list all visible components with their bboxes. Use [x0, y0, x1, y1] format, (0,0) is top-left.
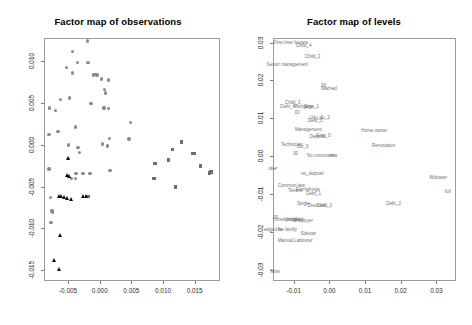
data-point-circle	[104, 91, 107, 94]
y-tick	[41, 145, 44, 146]
level-label: Management	[295, 128, 322, 133]
level-label: DI	[295, 111, 300, 116]
x-tick	[195, 281, 196, 284]
level-label: Widower	[429, 176, 447, 181]
level-label: tins	[330, 154, 337, 159]
level-label: Senior management	[267, 63, 308, 68]
data-point-square	[171, 148, 174, 151]
data-point-circle	[47, 133, 50, 136]
data-point-square	[209, 170, 212, 173]
x-tick-label: 0.01	[359, 287, 371, 294]
x-tick-label: 0.00	[323, 287, 335, 294]
y-tick	[270, 232, 273, 233]
y-tick-label: 0.03	[257, 36, 264, 48]
level-label: Home owner	[361, 129, 387, 134]
data-point-circle	[108, 169, 111, 172]
y-tick-label: -0.005	[28, 178, 35, 196]
level-label: Debt_1	[306, 192, 321, 197]
data-point-circle	[86, 39, 89, 42]
y-tick	[270, 80, 273, 81]
data-point-triangle	[66, 156, 70, 160]
y-tick	[270, 156, 273, 157]
data-point-circle	[67, 143, 70, 146]
data-point-square	[193, 152, 196, 155]
data-point-circle	[89, 102, 92, 105]
data-point-circle	[56, 130, 59, 133]
data-point-circle	[95, 73, 98, 76]
y-tick-label: -0.010	[28, 219, 35, 237]
data-point-triangle	[52, 258, 56, 262]
x-tick	[401, 281, 402, 284]
x-tick-label: 0.03	[430, 287, 442, 294]
figure-canvas: Factor map of observations -0.0050.0000.…	[0, 0, 472, 325]
data-point-circle	[81, 172, 84, 175]
y-tick	[41, 228, 44, 229]
data-point-square	[199, 164, 202, 167]
level-label: oker	[269, 167, 278, 172]
data-point-circle	[74, 172, 77, 175]
level-label: Sidecar	[301, 232, 317, 237]
level-label: Child_4	[296, 43, 312, 48]
x-tick-label: -0.005	[59, 287, 77, 294]
x-tick-label: 0.010	[155, 287, 171, 294]
level-label: the family	[277, 228, 297, 233]
level-label: Emp_1	[304, 105, 319, 110]
level-label: full	[445, 189, 451, 194]
data-point-square	[174, 185, 177, 188]
y-tick	[41, 270, 44, 271]
level-label: Employer	[294, 219, 313, 224]
y-tick-label: 0.02	[257, 74, 264, 86]
x-tick	[436, 281, 437, 284]
x-tick	[68, 281, 69, 284]
data-point-circle	[47, 167, 50, 170]
data-point-triangle	[57, 267, 61, 271]
level-label: no_deposit	[301, 171, 323, 176]
level-label: Child_0	[317, 204, 333, 209]
y-tick	[270, 194, 273, 195]
x-tick	[294, 281, 295, 284]
panel-observations: Factor map of observations -0.0050.0000.…	[0, 0, 236, 325]
level-label: Debt_2	[386, 202, 401, 207]
y-tick-label: 0.010	[28, 53, 35, 69]
data-point-circle	[101, 142, 104, 145]
level-label: Married	[321, 86, 337, 91]
data-point-triangle	[58, 233, 62, 237]
data-point-triangle	[69, 197, 73, 201]
data-point-square	[152, 177, 155, 180]
x-tick	[329, 281, 330, 284]
x-tick-label: -0.01	[286, 287, 301, 294]
data-point-circle	[51, 210, 54, 213]
x-tick-label: 0.015	[187, 287, 203, 294]
data-point-circle	[127, 137, 130, 140]
y-tick-label: -0.01	[257, 187, 264, 202]
data-point-circle	[49, 221, 52, 224]
y-tick-label: 0.000	[28, 137, 35, 153]
data-point-square	[180, 140, 183, 143]
x-tick-label: 0.005	[123, 287, 139, 294]
level-label: Manual Labourer	[278, 239, 313, 244]
x-tick	[100, 281, 101, 284]
x-tick	[365, 281, 366, 284]
panel-levels: Factor map of levels First-time buyersCh…	[236, 0, 472, 325]
y-tick-label: -0.02	[257, 224, 264, 239]
x-tick-label: 0.000	[92, 287, 108, 294]
y-tick-label: 0.005	[28, 95, 35, 111]
data-point-square	[153, 162, 156, 165]
data-point-triangle	[84, 194, 88, 198]
data-point-circle	[68, 96, 71, 99]
y-tick-label: -0.03	[257, 262, 264, 277]
y-tick	[41, 103, 44, 104]
y-tick	[41, 187, 44, 188]
data-point-triangle	[67, 174, 71, 178]
y-tick	[270, 270, 273, 271]
data-point-circle	[71, 71, 74, 74]
level-label: Debt_3	[308, 119, 323, 124]
data-point-square	[167, 158, 170, 161]
data-point-circle	[74, 125, 77, 128]
level-label: Child_2	[305, 55, 321, 60]
level-label: Debt_4	[280, 105, 295, 110]
y-tick	[41, 61, 44, 62]
plot-area-levels	[273, 38, 456, 281]
data-point-circle	[65, 66, 68, 69]
level-label: Renovation	[372, 144, 395, 149]
